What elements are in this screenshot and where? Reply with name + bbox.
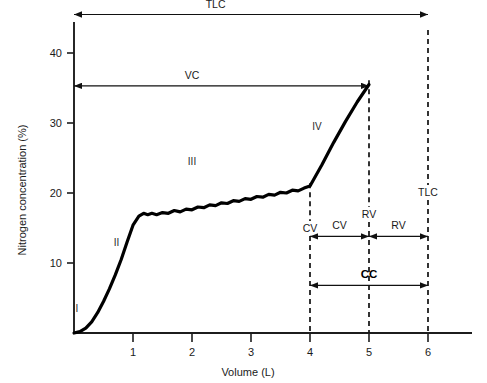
- reference-line-label-cv: CV: [303, 222, 318, 234]
- y-tick-label: 30: [50, 117, 62, 129]
- reference-line-label-rv: RV: [362, 208, 376, 220]
- x-tick-label: 2: [189, 346, 195, 358]
- x-axis-ticks: 123456: [130, 333, 431, 358]
- measurement-label-vc: VC: [185, 69, 200, 81]
- phase-label-i: I: [76, 303, 79, 314]
- chart-axes: [74, 22, 472, 333]
- y-tick-label: 20: [50, 187, 62, 199]
- reference-lines: CVRVTLC: [303, 30, 439, 333]
- y-tick-label: 40: [50, 47, 62, 59]
- measurement-label-rv: RV: [391, 219, 405, 231]
- x-axis-title: Volume (L): [221, 366, 274, 378]
- chart-canvas: 1020304050 123456 Nitrogen concentration…: [0, 0, 487, 383]
- measurement-label-tlc: TLC: [206, 0, 226, 10]
- y-tick-label: 10: [50, 257, 62, 269]
- x-tick-label: 1: [130, 346, 136, 358]
- measurement-label-cv: CV: [332, 219, 347, 231]
- phase-label-iii: III: [188, 156, 196, 167]
- nitrogen-washout-chart-figure: 1020304050 123456 Nitrogen concentration…: [0, 0, 487, 383]
- y-axis-title: Nitrogen concentration (%): [16, 125, 28, 256]
- x-tick-label: 4: [307, 346, 313, 358]
- nitrogen-washout-curve: [74, 85, 369, 334]
- y-axis-ticks: 1020304050: [50, 0, 74, 269]
- x-tick-label: 3: [248, 346, 254, 358]
- x-tick-label: 6: [425, 346, 431, 358]
- phase-label-ii: II: [114, 237, 120, 248]
- phase-label-iv: IV: [312, 121, 322, 132]
- measurement-label-cc: CC: [361, 268, 378, 280]
- reference-line-label-tlc: TLC: [418, 186, 438, 198]
- x-tick-label: 5: [366, 346, 372, 358]
